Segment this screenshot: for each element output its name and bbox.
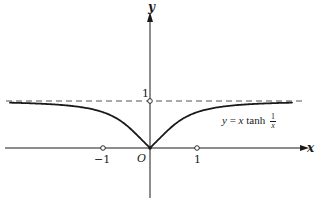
plot-canvas [0, 0, 316, 207]
fraction-denominator: x [270, 122, 276, 130]
x-tick-label-neg1: −1 [94, 154, 110, 165]
x-tick-label-pos1: 1 [194, 154, 201, 165]
figure: y x O −1 1 1 y = x tanh 1x [0, 0, 316, 207]
origin-point [148, 146, 152, 150]
tick-marker-pos1 [195, 146, 200, 151]
equation-fn: tanh [244, 114, 268, 126]
y-axis-label: y [148, 1, 155, 13]
curve-equation-label: y = x tanh 1x [222, 113, 276, 130]
equation-eq: = [227, 114, 239, 126]
origin-label: O [137, 153, 146, 164]
x-axis-label: x [307, 142, 314, 154]
y-tick-label-1: 1 [142, 88, 149, 99]
equation-fraction: 1x [270, 113, 276, 130]
tick-marker-neg1 [101, 146, 106, 151]
